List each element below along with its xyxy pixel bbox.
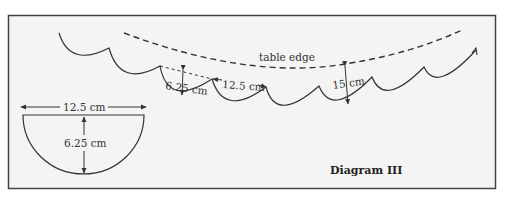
diagram-iii: 6.25 cm 12.5 cm table edge 15 cm 12.5 cm… [0,0,506,198]
table-edge-label: table edge [259,51,315,63]
template-width-label: 12.5 cm [63,101,106,113]
template-depth-label: 6.25 cm [64,137,107,149]
diagram-title: Diagram III [330,164,402,177]
